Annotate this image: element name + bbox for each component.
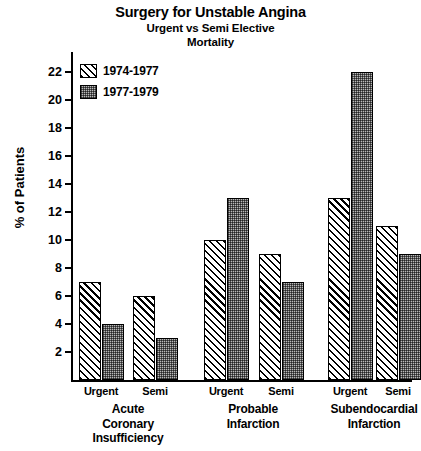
y-tick-label-text: 6 — [36, 290, 62, 302]
x-group-label-line: Probable — [188, 402, 318, 417]
bar — [328, 198, 350, 380]
y-tick-label: 22 — [32, 66, 62, 78]
y-tick-mark — [65, 295, 72, 297]
y-tick-label-text: 2 — [36, 346, 62, 358]
y-tick-mark — [65, 267, 72, 269]
legend-label: 1977-1979 — [103, 85, 159, 99]
y-tick-mark — [65, 183, 72, 185]
chart-legend: 1974-19771977-1979 — [80, 61, 159, 103]
y-tick-label: 16 — [32, 150, 62, 162]
y-tick-label-text: 20 — [36, 94, 62, 106]
legend-swatch — [80, 64, 97, 78]
bar — [102, 324, 124, 380]
x-group-label-line: Acute — [63, 402, 193, 417]
x-group-label-line: Infarction — [188, 417, 318, 432]
x-group-label-line: Infarction — [309, 417, 421, 432]
bar — [79, 282, 101, 380]
y-tick-mark — [65, 155, 72, 157]
bar — [351, 72, 373, 380]
legend-label: 1974-1977 — [103, 64, 159, 78]
bar — [227, 198, 249, 380]
y-tick-mark — [65, 323, 72, 325]
y-tick-mark — [65, 351, 72, 353]
y-tick-mark — [65, 239, 72, 241]
chart-container: Surgery for Unstable Angina Urgent vs Se… — [0, 0, 421, 451]
y-tick-label: 8 — [32, 262, 62, 274]
legend-swatch — [80, 85, 97, 99]
bar — [376, 226, 398, 380]
title-block: Surgery for Unstable Angina Urgent vs Se… — [0, 4, 421, 49]
x-subgroup-label: Urgent — [196, 385, 256, 397]
y-tick-label-text: 10 — [36, 234, 62, 246]
legend-item: 1977-1979 — [80, 82, 159, 101]
y-tick-label: 10 — [32, 234, 62, 246]
y-tick-label: 18 — [32, 122, 62, 134]
y-tick-label-text: 8 — [36, 262, 62, 274]
y-tick-label: 14 — [32, 178, 62, 190]
x-group-label-line: Coronary — [63, 417, 193, 432]
x-subgroup-label: Urgent — [71, 385, 131, 397]
y-tick-mark — [65, 127, 72, 129]
y-tick-label-text: 22 — [36, 66, 62, 78]
x-group-label: SubendocardialInfarction — [309, 402, 421, 431]
y-tick-label-text: 18 — [36, 122, 62, 134]
y-axis-label: % of Patients — [12, 133, 27, 243]
chart-title: Surgery for Unstable Angina — [0, 4, 421, 21]
bar — [282, 282, 304, 380]
y-tick-mark — [65, 71, 72, 73]
x-group-label: ProbableInfarction — [188, 402, 318, 431]
y-tick-label: 12 — [32, 206, 62, 218]
y-tick-label: 4 — [32, 318, 62, 330]
bar — [133, 296, 155, 380]
x-group-label-line: Subendocardial — [309, 402, 421, 417]
x-subgroup-label: Semi — [125, 385, 185, 397]
bar — [156, 338, 178, 380]
chart-subtitle-line1: Urgent vs Semi Elective — [0, 21, 421, 35]
y-tick-label-text: 14 — [36, 178, 62, 190]
x-subgroup-label: Semi — [251, 385, 311, 397]
legend-item: 1974-1977 — [80, 61, 159, 80]
y-tick-label: 2 — [32, 346, 62, 358]
y-tick-label-text: 12 — [36, 206, 62, 218]
x-group-label: AcuteCoronaryInsufficiency — [63, 402, 193, 446]
y-tick-label: 20 — [32, 94, 62, 106]
bar — [259, 254, 281, 380]
y-tick-label-text: 16 — [36, 150, 62, 162]
x-axis-line — [71, 380, 412, 382]
bar — [204, 240, 226, 380]
chart-subtitle-line2: Mortality — [0, 35, 421, 49]
bar — [399, 254, 421, 380]
x-subgroup-label: Semi — [368, 385, 421, 397]
y-tick-mark — [65, 99, 72, 101]
y-tick-label-text: 4 — [36, 318, 62, 330]
y-tick-mark — [65, 211, 72, 213]
x-group-label-line: Insufficiency — [63, 431, 193, 446]
y-tick-label: 6 — [32, 290, 62, 302]
bars-layer — [72, 55, 412, 380]
